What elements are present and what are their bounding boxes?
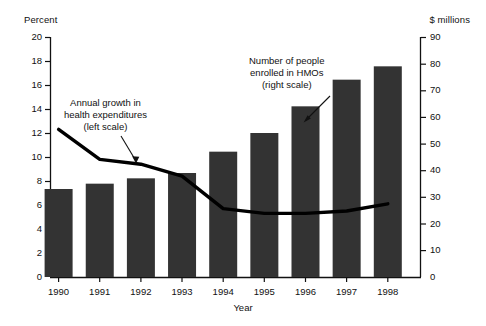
bar-1994 [209,152,237,277]
left-tick-label-0: 0 [20,272,42,282]
x-tick-label-1996: 1996 [286,287,326,297]
bar-1992 [127,178,155,277]
bar-1997 [333,80,361,277]
line-annotation-row-2: health expenditures [64,109,147,121]
right-tick-label-90: 90 [430,32,452,42]
bar-1996 [292,106,320,277]
right-tick-label-10: 10 [430,245,452,255]
bars-annotation-row-2: enrolled in HMOs [249,67,325,79]
x-tick-label-1995: 1995 [244,287,284,297]
left-tick-label-18: 18 [20,56,42,66]
right-tick-label-0: 0 [430,272,452,282]
bars-annotation: Number of people enrolled in HMOs (right… [249,55,325,92]
x-tick-label-1993: 1993 [162,287,202,297]
bars-annotation-row-1: Number of people [249,55,325,67]
line-annotation-row-3: (left scale) [64,121,147,133]
left-tick-label-2: 2 [20,248,42,258]
x-tick-label-1990: 1990 [39,287,79,297]
left-tick-label-10: 10 [20,152,42,162]
bar-1995 [250,133,278,277]
bar-1998 [374,66,402,277]
x-tick-label-1997: 1997 [327,287,367,297]
left-tick-label-6: 6 [20,200,42,210]
x-tick-label-1994: 1994 [203,287,243,297]
left-tick-label-14: 14 [20,104,42,114]
left-tick-label-16: 16 [20,80,42,90]
chart-plot-area [0,0,486,326]
x-tick-label-1992: 1992 [121,287,161,297]
bar-1991 [86,184,114,277]
right-tick-label-70: 70 [430,85,452,95]
right-tick-label-20: 20 [430,219,452,229]
line-annotation: Annual growth in health expenditures (le… [64,97,147,134]
x-tick-label-1998: 1998 [368,287,408,297]
right-tick-label-40: 40 [430,165,452,175]
left-tick-label-4: 4 [20,224,42,234]
left-tick-label-12: 12 [20,128,42,138]
line-annotation-arrow [121,136,139,164]
right-tick-label-60: 60 [430,112,452,122]
left-tick-label-8: 8 [20,176,42,186]
bar-1990 [45,189,73,277]
x-tick-label-1991: 1991 [80,287,120,297]
right-tick-label-30: 30 [430,192,452,202]
line-annotation-row-1: Annual growth in [64,97,147,109]
right-axis-ticks [421,38,426,251]
chart-figure: Percent $ millions Year [0,0,486,326]
right-tick-label-80: 80 [430,59,452,69]
bar-1993 [168,173,196,277]
left-tick-label-20: 20 [20,32,42,42]
bars-annotation-row-3: (right scale) [249,79,325,91]
right-tick-label-50: 50 [430,139,452,149]
